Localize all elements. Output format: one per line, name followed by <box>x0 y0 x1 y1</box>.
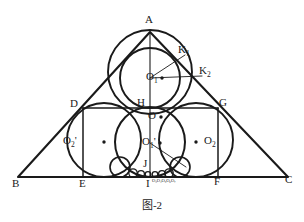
label-center-o1-prime-mark: ' <box>154 135 156 147</box>
label-center-o: O <box>148 110 156 121</box>
label-center-o1-prime: O1' <box>142 136 156 150</box>
label-center-o2-prime: O2' <box>63 135 77 149</box>
figure-container: A B C D E F G H I J O O1 O1' O2 O2' K1 K… <box>0 0 304 222</box>
label-point-f: F <box>214 176 220 187</box>
label-point-k1-subscript: 1 <box>186 49 190 58</box>
label-center-o1-letter: O <box>146 70 154 82</box>
label-point-b: B <box>12 178 19 189</box>
dot-o1-prime <box>158 141 161 144</box>
figure-caption: 图-2 <box>0 196 304 212</box>
label-point-e: E <box>79 178 86 189</box>
label-point-k2: K2 <box>199 65 211 79</box>
label-point-k1-letter: K <box>178 43 186 55</box>
label-point-k2-letter: K <box>199 64 207 76</box>
label-point-k1: K1 <box>178 44 190 58</box>
dot-o2-prime <box>102 140 105 143</box>
label-point-k2-subscript: 2 <box>207 70 211 79</box>
label-point-a: A <box>145 14 153 25</box>
label-point-d: D <box>70 98 78 109</box>
dot-o2 <box>194 140 197 143</box>
label-point-c: C <box>285 174 292 185</box>
label-point-g: G <box>219 97 227 108</box>
label-center-o1: O1 <box>146 71 158 85</box>
label-center-o1-prime-letter: O <box>142 135 150 147</box>
dot-o1 <box>160 76 163 79</box>
label-center-o1-subscript: 1 <box>154 76 158 85</box>
label-center-o2-prime-letter: O <box>63 134 71 146</box>
triangle-abc <box>18 32 288 177</box>
label-point-j: J <box>143 158 147 169</box>
label-point-i: I <box>146 178 150 189</box>
label-center-o2: O2 <box>204 135 216 149</box>
label-small-circle-centers: O₃O₄O₅O₆O₇ <box>152 179 176 184</box>
label-center-o2-subscript: 2 <box>212 140 216 149</box>
label-point-h: H <box>137 97 145 108</box>
label-center-o2-letter: O <box>204 134 212 146</box>
dot-o <box>159 115 162 118</box>
label-center-o2-prime-mark: ' <box>75 134 77 146</box>
